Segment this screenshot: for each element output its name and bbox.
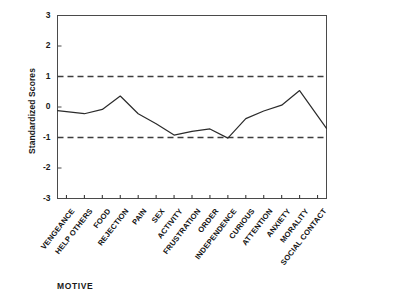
y-axis-tick-label: 2 [35, 41, 51, 50]
y-axis-tick-label: -3 [35, 194, 51, 203]
y-axis-tick-label: -2 [35, 163, 51, 172]
y-axis-tick-label: 0 [35, 102, 51, 111]
x-axis-title: MOTIVE [57, 281, 93, 291]
x-axis-ticks [66, 195, 317, 199]
y-axis-tick-label: 1 [35, 72, 51, 81]
plot-frame [58, 16, 327, 199]
data-series-group [58, 91, 327, 139]
data-line [58, 91, 327, 139]
y-axis-tick-label: 3 [35, 11, 51, 20]
line-chart-plot [0, 0, 411, 301]
chart-figure: Standardized Scores 3210-1-2-3 VENGEANCE… [0, 0, 411, 301]
y-axis-ticks [58, 16, 62, 199]
y-axis-title: Standardized Scores [27, 41, 37, 181]
reference-lines [58, 77, 327, 138]
y-axis-tick-label: -1 [35, 133, 51, 142]
